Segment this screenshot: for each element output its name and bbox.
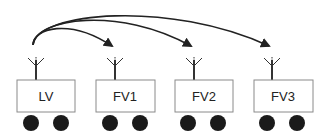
wheel-icon	[132, 115, 148, 131]
vehicle-fv2: FV2	[175, 56, 233, 131]
vehicle-label: FV1	[113, 89, 137, 104]
link-lv-fv3	[33, 16, 269, 46]
vehicle-label: LV	[39, 89, 54, 104]
wheel-icon	[180, 115, 196, 131]
vehicle-label: FV2	[192, 89, 216, 104]
link-lv-fv2	[33, 20, 191, 46]
antenna-icon	[186, 56, 202, 80]
wheel-icon	[259, 115, 275, 131]
vehicle-fv3: FV3	[254, 56, 313, 131]
antenna-icon	[107, 56, 123, 80]
wheel-icon	[289, 115, 305, 131]
platoon-diagram: LV FV1 FV2	[0, 0, 327, 137]
vehicle-label: FV3	[271, 89, 295, 104]
wheel-icon	[210, 115, 226, 131]
wheel-icon	[23, 115, 39, 131]
wheel-icon	[53, 115, 69, 131]
antenna-icon	[28, 56, 44, 80]
vehicle-lv: LV	[17, 56, 75, 131]
vehicle-fv1: FV1	[96, 56, 155, 131]
antenna-icon	[264, 56, 280, 80]
communication-links	[33, 16, 269, 46]
wheel-icon	[102, 115, 118, 131]
